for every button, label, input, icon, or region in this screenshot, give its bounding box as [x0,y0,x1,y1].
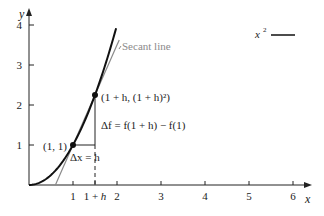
x-tick-1-label: 1 [70,190,76,202]
secant-line-label: Secant line [122,40,171,52]
x-tick-2-label: 2 [114,190,120,202]
x-tick-4-label: 4 [202,190,208,202]
secant-label-leader [119,46,121,49]
x-tick-3-label: 3 [158,190,164,202]
legend: x 2 [254,26,295,40]
x-tick-5-label: 5 [246,190,252,202]
legend-label-superscript: 2 [263,26,267,34]
legend-label: x [254,28,260,40]
x-tick-1-plus-h-label: 1 + h [84,190,107,202]
delta-f-label: Δf = f(1 + h) − f(1) [101,119,186,132]
x-tick-6-label: 6 [290,190,296,202]
y-tick-2-label: 2 [17,99,23,111]
delta-x-label: Δx = h [70,151,100,163]
point-1-1 [70,142,76,148]
x-ticks: 1234561 + h [70,181,296,202]
x-axis-arrow [304,182,312,188]
y-tick-4-label: 4 [17,19,23,31]
x-axis-label: x [304,192,311,206]
y-tick-3-label: 3 [17,59,23,71]
y-tick-1-label: 1 [17,139,23,151]
y-ticks: 1234 [17,19,35,151]
point-1-plus-h [92,92,98,98]
point-label-1-plus-h: (1 + h, (1 + h)²) [101,91,170,104]
point-label-1-1: (1, 1) [43,140,67,153]
y-axis-arrow [26,8,32,16]
chart: x y 1234561 + h 1234 Secant line (1, 1) … [0,0,324,216]
